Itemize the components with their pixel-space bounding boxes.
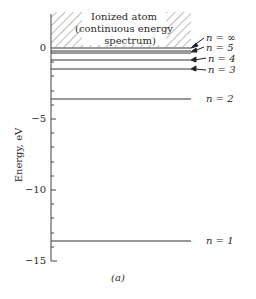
tick-minus10: −10 [25,184,46,195]
label-n-4: n = 4 [208,53,236,64]
tick-0: 0 [40,42,46,53]
label-n-5: n = 5 [206,42,234,53]
tick-minus15: −15 [25,255,46,266]
tick-minus5: −5 [31,113,46,124]
level-arrows [191,38,206,71]
label-n-3: n = 3 [208,64,236,75]
energy-level-diagram: Ionized atom (continuous energy spectrum… [0,0,256,299]
y-ticks [51,62,56,247]
figure-label: (a) [111,272,125,283]
region-title-3: spectrum) [104,35,156,46]
region-title-1: Ionized atom [91,11,157,22]
label-n-2: n = 2 [206,93,234,104]
y-axis-label: Energy, eV [13,127,24,182]
label-n-1: n = 1 [206,235,234,246]
region-title-2: (continuous energy [75,23,173,34]
